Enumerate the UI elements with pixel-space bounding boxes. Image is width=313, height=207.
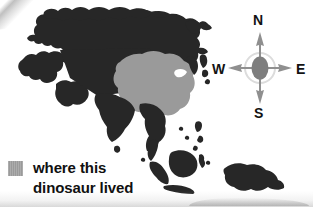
compass-label-north: N bbox=[253, 13, 263, 27]
sumatra bbox=[149, 161, 168, 184]
legend-swatch-habitat bbox=[8, 161, 23, 176]
map-legend: where this dinosaur lived bbox=[8, 158, 133, 198]
sri-lanka bbox=[114, 146, 120, 153]
compass-arrow-south bbox=[256, 76, 264, 104]
borneo bbox=[169, 150, 198, 177]
compass-arrow-north bbox=[256, 32, 264, 60]
compass-label-south: S bbox=[254, 106, 263, 120]
java bbox=[163, 185, 194, 194]
japan-archipelago bbox=[200, 55, 210, 85]
compass-rose: N S W E bbox=[212, 12, 308, 124]
legend-line-2: dinosaur lived bbox=[33, 178, 133, 198]
new-guinea-australia-edge bbox=[224, 163, 285, 190]
map-figure-page: N S W E where this dinosaur lived bbox=[0, 0, 313, 207]
legend-text: where this dinosaur lived bbox=[33, 158, 133, 198]
compass-label-west: W bbox=[212, 62, 225, 76]
legend-line-1: where this bbox=[33, 158, 133, 178]
compass-label-east: E bbox=[296, 62, 305, 76]
compass-hub bbox=[252, 57, 269, 80]
sulawesi bbox=[199, 154, 205, 168]
philippines bbox=[193, 121, 203, 151]
